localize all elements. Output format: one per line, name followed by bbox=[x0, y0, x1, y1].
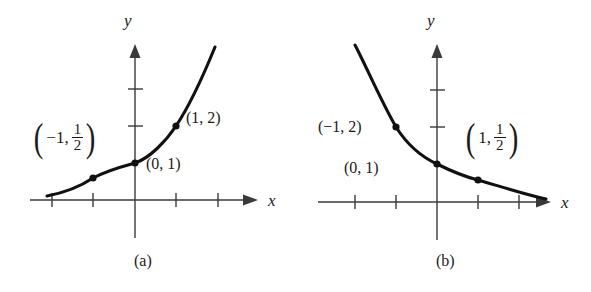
open-paren-b: ( bbox=[466, 122, 476, 153]
y-axis-label-b: y bbox=[427, 12, 435, 29]
fraction-one-half-a: 1 2 bbox=[72, 122, 84, 154]
x-axis-label-b: x bbox=[561, 194, 569, 211]
data-point-1-2-a bbox=[172, 122, 179, 129]
panel-b-graph bbox=[296, 0, 591, 292]
point-label-1-2-a: (1, 2) bbox=[186, 110, 221, 126]
fraction-one-half-b: 1 2 bbox=[494, 122, 506, 154]
data-point-minus1-2-b bbox=[392, 123, 399, 130]
data-point-0-1-b bbox=[433, 160, 440, 167]
panel-b: y x (−1, 2) (0, 1) ( 1, 1 2 ) (b) bbox=[296, 0, 591, 292]
y-axis-arrowhead-b bbox=[432, 44, 443, 58]
x-axis-label-a: x bbox=[268, 192, 276, 209]
fraction-denominator-a: 2 bbox=[72, 137, 84, 153]
data-point-minus1-half-a bbox=[89, 174, 96, 181]
y-axis-arrowhead-a bbox=[130, 44, 141, 58]
point-label-0-1-a: (0, 1) bbox=[146, 156, 181, 172]
data-point-0-1-a bbox=[131, 159, 138, 166]
close-paren-a: ) bbox=[86, 122, 96, 153]
point-label-minus1-2-b: (−1, 2) bbox=[318, 119, 362, 135]
y-axis-label-a: y bbox=[124, 12, 132, 29]
x-axis-arrowhead-a bbox=[243, 195, 258, 206]
panel-caption-b: (b) bbox=[436, 253, 455, 269]
fraction-numerator-b: 1 bbox=[494, 122, 506, 137]
point-label-1-half-b: ( 1, 1 2 ) bbox=[464, 122, 520, 154]
data-point-1-half-b bbox=[474, 176, 481, 183]
fraction-body-a: −1, 1 2 bbox=[45, 122, 84, 154]
fraction-body-b: 1, 1 2 bbox=[477, 122, 506, 154]
exponential-functions-figure: y x ( −1, 1 2 ) (0, 1) (1, 2) (a) bbox=[0, 0, 591, 292]
close-paren-b: ) bbox=[508, 122, 518, 153]
point-label-0-1-b: (0, 1) bbox=[344, 160, 379, 176]
point-label-minus1-half-a: ( −1, 1 2 ) bbox=[32, 122, 98, 154]
open-paren-a: ( bbox=[34, 122, 44, 153]
point-x-value-a: −1, bbox=[46, 129, 68, 146]
panel-a: y x ( −1, 1 2 ) (0, 1) (1, 2) (a) bbox=[0, 0, 295, 292]
panel-caption-a: (a) bbox=[134, 253, 152, 269]
fraction-denominator-b: 2 bbox=[494, 137, 506, 153]
point-x-value-b: 1, bbox=[478, 129, 491, 146]
fraction-numerator-a: 1 bbox=[72, 122, 84, 137]
